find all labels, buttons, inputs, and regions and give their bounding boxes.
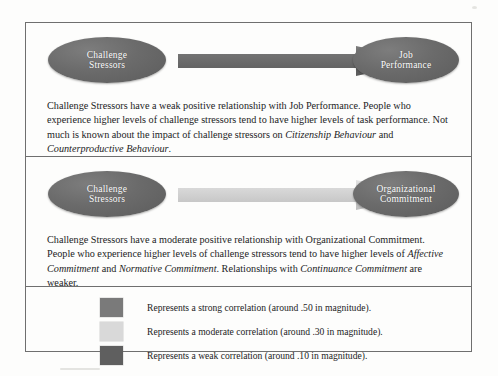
node-label-line1: Job: [377, 50, 436, 60]
legend-item-moderate: Represents a moderate correlation (aroun…: [100, 320, 461, 343]
text-run-italic: Continuance Commitment: [300, 263, 407, 274]
node-challenge-stressors-2: Challenge Stressors: [48, 171, 166, 217]
node-label-line2: Stressors: [83, 194, 131, 204]
node-label-line2: Commitment: [372, 194, 439, 204]
node-label-line1: Challenge: [83, 184, 131, 194]
node-job-performance: Job Performance: [353, 37, 459, 83]
legend-label-moderate: Represents a moderate correlation (aroun…: [147, 326, 383, 337]
text-run: . Relationships with: [217, 263, 301, 274]
node-label-line2: Performance: [377, 60, 436, 70]
legend-swatch-moderate: [100, 322, 123, 341]
panel-challenge-job-performance: Challenge Stressors: [26, 33, 471, 157]
node-challenge-stressors-1: Challenge Stressors: [48, 37, 166, 83]
legend-label-weak: Represents a weak correlation (around .1…: [147, 350, 367, 361]
legend: Represents a strong correlation (around …: [100, 296, 461, 368]
text-run: .: [169, 143, 172, 154]
text-run: and: [99, 263, 119, 274]
legend-item-weak: Represents a weak correlation (around .1…: [100, 344, 461, 367]
panel-challenge-organizational-commitment: Challenge Stressors: [26, 167, 471, 287]
description-organizational-commitment: Challenge Stressors have a moderate posi…: [47, 233, 455, 290]
legend-swatch-strong: [100, 298, 123, 317]
description-job-performance: Challenge Stressors have a weak positive…: [47, 99, 455, 156]
panel-legend: Represents a strong correlation (around …: [26, 287, 471, 370]
text-run: Challenge Stressors have a moderate posi…: [47, 234, 425, 259]
figure-frame: Challenge Stressors: [25, 22, 472, 352]
legend-swatch-weak: [100, 346, 123, 365]
scan-artifact: [472, 6, 477, 9]
legend-item-strong: Represents a strong correlation (around …: [100, 296, 461, 319]
text-run-italic: Counterproductive Behaviour: [47, 143, 169, 154]
node-label-line2: Stressors: [83, 60, 131, 70]
node-organizational-commitment: Organizational Commitment: [353, 171, 459, 217]
flow-row-job-performance: Challenge Stressors: [26, 33, 471, 91]
node-label-line1: Challenge: [83, 50, 131, 60]
text-run-italic: Normative Commitment: [119, 263, 217, 274]
text-run: and: [376, 129, 393, 140]
text-run-italic: Citizenship Behaviour: [285, 129, 376, 140]
legend-label-strong: Represents a strong correlation (around …: [147, 302, 371, 313]
node-label-line1: Organizational: [372, 184, 439, 194]
flow-row-organizational-commitment: Challenge Stressors: [26, 167, 471, 225]
